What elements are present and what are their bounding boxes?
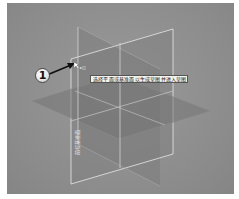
callout-arrow	[47, 65, 71, 75]
tooltip: 选择平面或基准面以生成草图并进入草图绘制	[90, 75, 188, 83]
front-plane-label: 前视基准面	[73, 130, 80, 155]
graphics-viewport[interactable]: 1 ▸◫ 选择平面或基准面以生成草图并进入草图绘制 前视基准面	[7, 3, 234, 194]
callout-badge: 1	[35, 68, 50, 83]
reference-planes-scene[interactable]	[7, 3, 234, 194]
cursor-plane-icon: ▸◫	[80, 65, 86, 70]
top-plane[interactable]	[32, 75, 210, 139]
